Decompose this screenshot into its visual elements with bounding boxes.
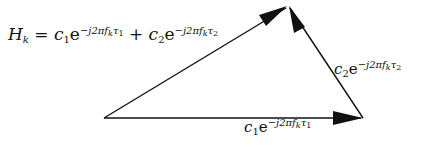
eq-t2-exp-sub2: 2 (213, 29, 218, 38)
c2-arrowhead (289, 6, 305, 33)
eq-t2-exp: −j2πf (175, 25, 203, 36)
eq-lhs: H (8, 24, 23, 44)
c2-vector-label: c2e−j2πfkτ2 (334, 59, 401, 79)
resultant-equation: Hk = c1e−j2πfkτ1 + c2e−j2πfkτ2 (8, 24, 218, 45)
c1-base: e (259, 118, 268, 136)
eq-t2-base: e (165, 24, 175, 44)
eq-t2-coef: c (149, 24, 159, 44)
eq-t1-exp: −j2πf (80, 25, 108, 36)
eq-t1-base: e (70, 24, 80, 44)
eq-plus: + (129, 24, 143, 44)
c1-exp: −j2πf (268, 117, 296, 128)
c1-vector-label: c1e−j2πfkτ1 (244, 117, 311, 137)
eq-t1-exp-sub2: 1 (118, 29, 123, 38)
c2-exp-sub2: 2 (396, 63, 401, 72)
c1-arrowhead (333, 111, 363, 125)
c1-exp-sub2: 1 (306, 121, 311, 130)
c2-exp: −j2πf (358, 59, 386, 70)
c2-base: e (349, 60, 358, 78)
eq-equals: = (34, 24, 48, 44)
resultant-arrowhead (259, 6, 287, 26)
eq-lhs-sub: k (23, 34, 29, 45)
